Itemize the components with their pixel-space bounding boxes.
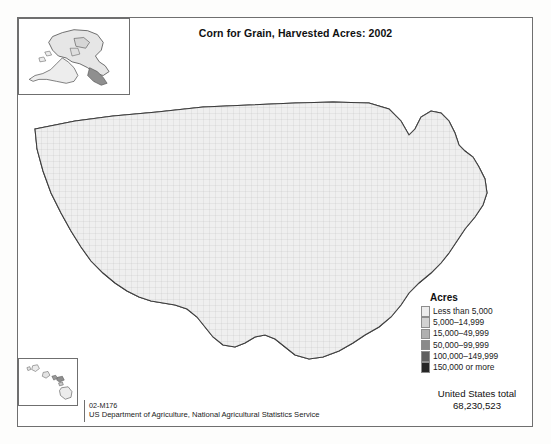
legend-swatch-3 [421,340,430,351]
footer-agency-name: US Department of Agriculture, National A… [89,410,319,420]
legend-swatch-0 [421,306,430,317]
legend-swatch-1 [421,317,430,328]
hawaii-inset [18,358,78,406]
legend-swatch-5 [421,362,430,373]
legend-title: Acres [430,292,529,303]
us-total-label: United States total [421,388,533,400]
united-states-total: United States total 68,230,523 [421,388,533,412]
us-outline [35,102,487,359]
legend-label-5: 150,000 or more [433,362,494,373]
legend-label-1: 5,000–14,999 [433,317,484,328]
footer-map-code: 02-M176 [89,401,319,410]
legend-label-2: 15,000–49,999 [433,328,489,339]
legend-item: 150,000 or more [421,362,529,373]
legend-swatch-4 [421,351,430,362]
hawaii-map [19,359,77,405]
legend-swatch-2 [421,329,430,340]
legend-label-4: 100,000–149,999 [433,351,498,362]
legend-item: 15,000–49,999 [421,328,529,339]
legend-item: Less than 5,000 [421,306,529,317]
legend-item: 5,000–14,999 [421,317,529,328]
legend-item: 100,000–149,999 [421,351,529,362]
legend-label-0: Less than 5,000 [433,306,493,317]
footer: 02-M176 US Department of Agriculture, Na… [89,401,319,420]
us-total-value: 68,230,523 [421,400,533,412]
legend-item: 50,000–99,999 [421,340,529,351]
legend: Acres Less than 5,000 5,000–14,999 15,00… [421,292,529,373]
footer-divider [84,400,85,422]
legend-label-3: 50,000–99,999 [433,340,489,351]
map-title: Corn for Grain, Harvested Acres: 2002 [0,27,551,39]
